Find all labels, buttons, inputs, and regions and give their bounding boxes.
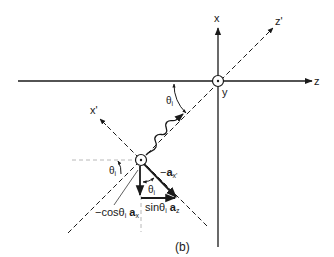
label-x-axis: x bbox=[214, 13, 220, 24]
theta-arc-inner bbox=[143, 178, 154, 182]
theta-arc-top bbox=[174, 84, 186, 113]
label-theta-top: θi bbox=[166, 96, 173, 107]
label-theta-left: θi bbox=[109, 166, 116, 177]
figure-caption: (b) bbox=[175, 241, 190, 253]
z-prime-arrowhead bbox=[266, 28, 273, 35]
x-prime-arrowhead bbox=[100, 119, 106, 125]
diagram-svg bbox=[0, 0, 334, 257]
label-y-axis: y bbox=[222, 87, 228, 98]
diagram-canvas: x z y z' x' θi θi θi −ax' sinθi az −cosθ… bbox=[0, 0, 334, 257]
label-z-axis: z bbox=[314, 76, 320, 87]
incident-wave bbox=[146, 120, 176, 155]
label-neg-cos-ax: −cosθi ax bbox=[95, 207, 139, 219]
label-x-prime-axis: x' bbox=[90, 105, 98, 116]
label-sin-az: sinθi az bbox=[145, 202, 179, 214]
label-neg-ax-prime: −ax' bbox=[160, 167, 177, 179]
label-theta-inner: θi bbox=[148, 185, 155, 196]
theta-arc-left bbox=[118, 161, 121, 174]
label-z-prime-axis: z' bbox=[275, 16, 283, 27]
origin-y-symbol bbox=[213, 76, 224, 87]
